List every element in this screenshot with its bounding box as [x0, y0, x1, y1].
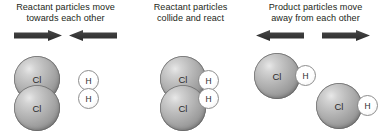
- chlorine-atom-label: Cl: [160, 85, 206, 131]
- molecule-group: Cl H Cl H: [250, 0, 381, 132]
- hydrogen-atom: H: [78, 88, 99, 109]
- panel-products-separate: Product particles move away from each ot…: [250, 0, 381, 132]
- hydrogen-atom-label: H: [79, 89, 98, 108]
- chlorine-atom: Cl: [316, 83, 362, 129]
- molecule-group: Cl Cl H H: [131, 0, 250, 132]
- chlorine-atom: Cl: [160, 85, 206, 131]
- chlorine-atom: Cl: [14, 85, 60, 131]
- panel-reactants-approach: Reactant particles move towards each oth…: [0, 0, 131, 132]
- molecule-group: Cl Cl H H: [0, 0, 131, 132]
- panel-collision: Reactant particles collide and react Cl …: [131, 0, 250, 132]
- chlorine-atom-label: Cl: [316, 83, 362, 129]
- chlorine-atom-label: Cl: [14, 85, 60, 131]
- chlorine-atom: Cl: [254, 53, 300, 99]
- chlorine-atom-label: Cl: [254, 53, 300, 99]
- reaction-diagram: Reactant particles move towards each oth…: [0, 0, 381, 132]
